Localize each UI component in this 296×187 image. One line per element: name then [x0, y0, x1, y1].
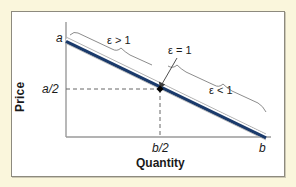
demand-curve-base-outline — [66, 44, 266, 141]
y-axis-top-label: a — [56, 32, 63, 44]
y-axis-title: Price — [14, 82, 26, 112]
x-axis-mid-label: b/2 — [152, 142, 169, 154]
inelastic-region-label: ε < 1 — [209, 85, 233, 96]
elastic-region-label: ε > 1 — [107, 35, 131, 46]
unit-elastic-label: ε = 1 — [168, 45, 192, 56]
unit-elastic-arrow-shaft — [162, 58, 177, 84]
x-axis-title: Quantity — [136, 157, 185, 169]
figure-container: a a/2 b/2 b Price Quantity ε > 1 ε = 1 ε… — [0, 0, 296, 187]
y-axis-mid-label: a/2 — [42, 83, 59, 95]
x-axis-end-label: b — [259, 142, 266, 154]
demand-curve-outline — [66, 37, 266, 134]
demand-curve — [66, 42, 266, 139]
demand-curve-highlight — [66, 40, 266, 137]
